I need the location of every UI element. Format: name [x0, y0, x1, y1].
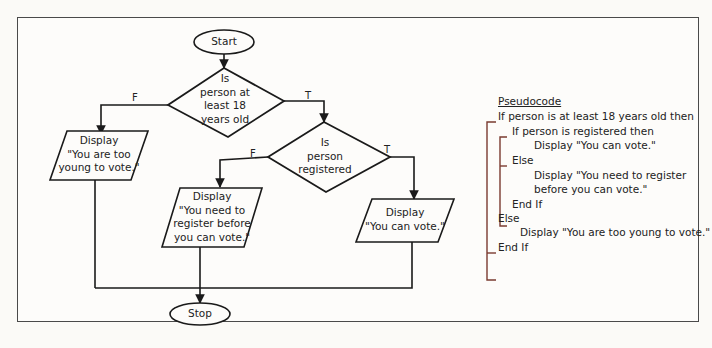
true-label-1: T [305, 90, 311, 101]
output-line: you can vote." [166, 231, 258, 245]
output-too-young-text: Display "You are too young to vote." [54, 134, 144, 175]
output-line: "You need to [166, 204, 258, 218]
pseudocode-line: If person is at least 18 years old then [498, 109, 694, 123]
output-line: "You are too [54, 148, 144, 162]
stop-label: Stop [180, 307, 220, 321]
decision-registered-line: Is [290, 136, 360, 150]
output-register-text: Display "You need to register before you… [166, 190, 258, 244]
decision-registered-line: registered [290, 163, 360, 177]
output-line: "You can vote." [360, 220, 450, 234]
pseudocode-line: If person is registered then [512, 124, 654, 138]
output-line: Display [166, 190, 258, 204]
decision-registered-line: person [290, 150, 360, 164]
output-line: young to vote." [54, 161, 144, 175]
pseudocode-line: before you can vote." [534, 182, 647, 196]
pseudocode-title: Pseudocode [498, 94, 561, 108]
decision-age-line: Is [190, 72, 260, 86]
output-line: Display [54, 134, 144, 148]
pseudocode-line: Display "You need to register [534, 168, 686, 182]
false-label-2: F [250, 148, 256, 159]
decision-age-line: least 18 [190, 99, 260, 113]
pseudocode-line: Else [512, 153, 533, 167]
pseudocode-line: Display "You can vote." [534, 138, 656, 152]
output-line: register before [166, 217, 258, 231]
pseudocode-line: Else [498, 211, 519, 225]
output-can-vote-text: Display "You can vote." [360, 206, 450, 233]
decision-age-line: years old [190, 113, 260, 127]
decision-registered-text: Is person registered [290, 136, 360, 177]
start-label: Start [204, 35, 244, 49]
false-label-1: F [132, 92, 138, 103]
decision-age-text: Is person at least 18 years old [190, 72, 260, 126]
true-label-2: T [384, 144, 390, 155]
output-line: Display [360, 206, 450, 220]
pseudocode-line: End If [512, 197, 542, 211]
decision-age-line: person at [190, 86, 260, 100]
pseudocode-brackets [487, 122, 507, 280]
pseudocode-line: Display "You are too young to vote." [520, 225, 710, 239]
pseudocode-line: End If [498, 240, 528, 254]
